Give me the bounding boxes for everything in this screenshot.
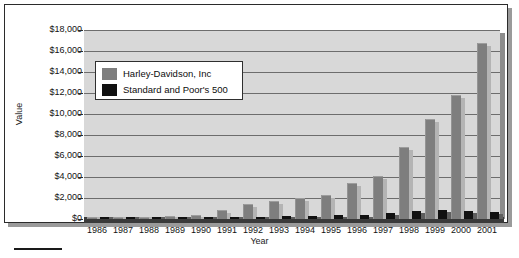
bar-top-face bbox=[478, 43, 487, 44]
bar-group-1989 bbox=[165, 30, 184, 219]
chart-legend: Harley-Davidson, Inc Standard and Poor's… bbox=[95, 61, 243, 100]
bar-harley-davidson-1996 bbox=[347, 183, 357, 219]
bar-harley-davidson-1999 bbox=[425, 119, 435, 219]
bar-sp500-1991 bbox=[230, 217, 239, 219]
y-tick-mark bbox=[78, 93, 83, 94]
y-tick-label: $8,000 bbox=[26, 130, 82, 139]
bar-sp500-1992 bbox=[256, 217, 265, 219]
legend-item-harley-davidson: Harley-Davidson, Inc bbox=[102, 66, 211, 81]
bar-group-1990 bbox=[191, 30, 210, 219]
bar-top-face bbox=[218, 210, 227, 211]
bar-group-1987 bbox=[113, 30, 132, 219]
bar-group-1993 bbox=[269, 30, 288, 219]
bar-sp500-1989 bbox=[178, 217, 187, 219]
bar-top-face bbox=[88, 217, 97, 218]
bar-group-1999 bbox=[425, 30, 444, 219]
y-tick-mark bbox=[78, 198, 83, 199]
bar-side-face bbox=[409, 150, 413, 219]
bar-sp500-1993 bbox=[282, 216, 291, 219]
bar-sp500-1997 bbox=[386, 213, 395, 219]
x-axis-title: Year bbox=[0, 236, 519, 246]
bar-top-face bbox=[348, 183, 357, 184]
bar-group-2000 bbox=[451, 30, 470, 219]
bar-harley-davidson-1989 bbox=[165, 216, 175, 219]
y-tick-mark bbox=[78, 51, 83, 52]
y-tick-label: $10,000 bbox=[26, 109, 82, 118]
y-tick-label: $14,000 bbox=[26, 67, 82, 76]
y-tick-mark bbox=[78, 219, 83, 220]
bar-top-face bbox=[166, 216, 175, 217]
bar-sp500-1999 bbox=[438, 210, 447, 219]
y-tick-label: $18,000 bbox=[26, 25, 82, 34]
y-tick-label: $2,000 bbox=[26, 193, 82, 202]
bar-top-face bbox=[426, 119, 435, 120]
bar-harley-davidson-1995 bbox=[321, 195, 331, 219]
bar-harley-davidson-1987 bbox=[113, 217, 123, 219]
legend-swatch-sp500 bbox=[102, 84, 117, 96]
bar-group-1998 bbox=[399, 30, 418, 219]
y-tick-label: $16,000 bbox=[26, 46, 82, 55]
bar-top-face bbox=[296, 198, 305, 199]
legend-swatch-harley-davidson bbox=[102, 68, 117, 80]
y-tick-label: $4,000 bbox=[26, 172, 82, 181]
bar-group-1991 bbox=[217, 30, 236, 219]
y-tick-mark bbox=[78, 135, 83, 136]
bar-side-face bbox=[435, 122, 439, 219]
bar-sp500-1990 bbox=[204, 217, 213, 219]
chart-figure: Value $0$2,000$4,000$6,000$8,000$10,000$… bbox=[0, 0, 519, 258]
bar-harley-davidson-2001 bbox=[477, 43, 487, 219]
bar-top-face bbox=[322, 195, 331, 196]
y-tick-mark bbox=[78, 72, 83, 73]
bar-top-face bbox=[192, 215, 201, 216]
bar-harley-davidson-1991 bbox=[217, 210, 227, 219]
plot-right-wall bbox=[500, 33, 505, 219]
bar-top-face bbox=[114, 217, 123, 218]
bar-side-face bbox=[461, 98, 465, 219]
y-tick-mark bbox=[78, 30, 83, 31]
bar-top-face bbox=[270, 201, 279, 202]
bar-sp500-1995 bbox=[334, 215, 343, 219]
bar-group-1988 bbox=[139, 30, 158, 219]
bar-harley-davidson-1992 bbox=[243, 204, 253, 219]
bar-side-face bbox=[487, 46, 491, 219]
y-tick-label: $0 bbox=[26, 214, 82, 223]
chart-frame: Value $0$2,000$4,000$6,000$8,000$10,000$… bbox=[4, 4, 508, 223]
bar-sp500-1988 bbox=[152, 217, 161, 219]
bar-sp500-1986 bbox=[100, 217, 109, 219]
x-tick-label-2001: 2001 bbox=[472, 225, 502, 235]
bar-top-face bbox=[140, 217, 149, 218]
bar-sp500-1994 bbox=[308, 216, 317, 219]
bar-group-1995 bbox=[321, 30, 340, 219]
bar-harley-davidson-1994 bbox=[295, 198, 305, 219]
bar-group-1996 bbox=[347, 30, 366, 219]
bar-harley-davidson-1986 bbox=[87, 217, 97, 219]
bar-group-1994 bbox=[295, 30, 314, 219]
bar-side-face bbox=[499, 214, 503, 219]
bar-sp500-2000 bbox=[464, 211, 473, 219]
bar-group-1992 bbox=[243, 30, 262, 219]
bar-harley-davidson-1997 bbox=[373, 176, 383, 219]
bar-harley-davidson-1988 bbox=[139, 217, 149, 219]
bar-top-face bbox=[400, 147, 409, 148]
y-axis-title: Value bbox=[14, 84, 24, 144]
bar-harley-davidson-1993 bbox=[269, 201, 279, 219]
bar-sp500-1998 bbox=[412, 211, 421, 219]
bar-harley-davidson-1998 bbox=[399, 147, 409, 219]
bar-harley-davidson-1990 bbox=[191, 215, 201, 219]
bar-top-face bbox=[244, 204, 253, 205]
bar-top-face bbox=[374, 176, 383, 177]
bottom-rule bbox=[14, 248, 62, 250]
bar-sp500-1987 bbox=[126, 217, 135, 219]
y-tick-label: $12,000 bbox=[26, 88, 82, 97]
legend-item-sp500: Standard and Poor's 500 bbox=[102, 82, 228, 97]
bar-sp500-1996 bbox=[360, 215, 369, 219]
bar-harley-davidson-2000 bbox=[451, 95, 461, 219]
bar-group-1997 bbox=[373, 30, 392, 219]
legend-label-sp500: Standard and Poor's 500 bbox=[123, 84, 228, 95]
bar-top-face bbox=[452, 95, 461, 96]
bar-group-2001 bbox=[477, 30, 496, 219]
bar-group-1986 bbox=[87, 30, 106, 219]
y-tick-mark bbox=[78, 156, 83, 157]
bar-sp500-2001 bbox=[490, 212, 499, 219]
y-tick-label: $6,000 bbox=[26, 151, 82, 160]
